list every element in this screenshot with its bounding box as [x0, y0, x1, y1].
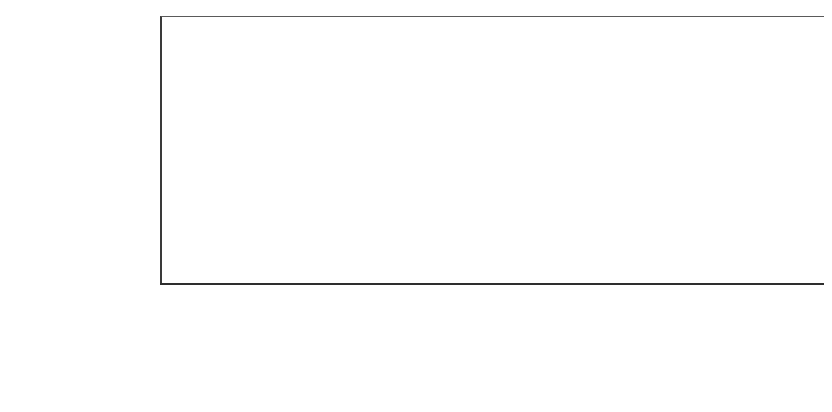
y-axis — [0, 0, 154, 292]
bars-layer — [162, 17, 824, 285]
plot-area — [160, 16, 824, 285]
axis-baseline — [160, 283, 824, 285]
chart-plot-region — [0, 0, 832, 292]
